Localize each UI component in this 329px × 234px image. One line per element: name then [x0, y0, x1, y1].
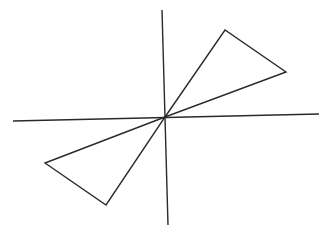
diagram-svg — [0, 0, 329, 234]
diagram-canvas — [0, 0, 329, 234]
upper-right-triangle — [165, 30, 286, 117]
lower-left-triangle — [45, 117, 165, 205]
